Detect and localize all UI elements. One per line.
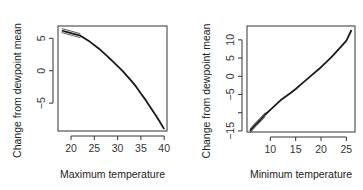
chart-figure: 202530354050−5Maximum temperatureChange … — [0, 0, 363, 190]
y-tick-label: 5 — [35, 35, 47, 41]
confidence-band-upper — [250, 113, 265, 129]
y-tick-label: 5 — [224, 55, 236, 61]
x-tick-label: 30 — [112, 142, 124, 154]
x-axis-label: Maximum temperature — [60, 168, 165, 180]
y-tick-label: 10 — [224, 34, 236, 46]
y-tick-label: −5 — [35, 97, 47, 109]
panel-max-temperature: 202530354050−5Maximum temperatureChange … — [11, 23, 170, 180]
y-tick-label: 0 — [224, 73, 236, 79]
x-tick-label: 25 — [88, 142, 100, 154]
x-tick-label: 25 — [341, 143, 353, 155]
x-tick-label: 35 — [135, 142, 147, 154]
x-tick-label: 20 — [315, 143, 327, 155]
x-tick-label: 15 — [290, 143, 302, 155]
plot-frame — [58, 26, 167, 131]
panel-min-temperature: 101520251050−5−15Minimum temperatureChan… — [200, 23, 355, 180]
y-tick-label: −15 — [224, 122, 236, 140]
x-axis-label: Minimum temperature — [250, 168, 352, 180]
x-tick-label: 40 — [158, 142, 170, 154]
y-axis-label: Change from dewpoint mean — [200, 23, 212, 158]
y-axis-label: Change from dewpoint mean — [11, 23, 23, 158]
data-line — [62, 31, 165, 130]
y-tick-label: −5 — [224, 88, 236, 100]
x-tick-label: 20 — [65, 142, 77, 154]
confidence-band-lower — [250, 117, 265, 133]
x-tick-label: 10 — [264, 143, 276, 155]
y-tick-label: 0 — [35, 68, 47, 74]
data-line — [250, 30, 352, 131]
